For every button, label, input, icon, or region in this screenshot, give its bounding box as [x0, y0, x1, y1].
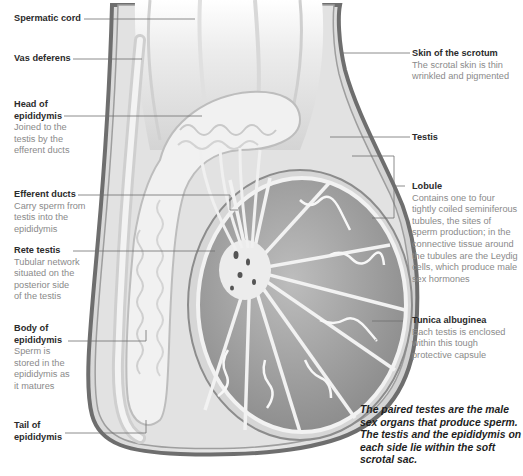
label-description: epididymis as — [14, 369, 70, 381]
label-title: Efferent ducts — [14, 189, 85, 201]
label-title: Tail of — [14, 420, 62, 432]
label-tunica-albuginea: Tunica albuginea Each testis is enclosed… — [412, 315, 505, 361]
label-description: epididymis — [14, 224, 85, 236]
diagram-caption: The paired testes are the male sex organ… — [360, 404, 523, 467]
label-spermatic-cord: Spermatic cord — [14, 13, 81, 25]
label-description: Tubular network — [14, 257, 80, 269]
label-lobule: Lobule Contains one to four tightly coil… — [412, 181, 518, 285]
label-tail-of-epididymis: Tail of epididymis — [14, 420, 62, 443]
label-description: tubules, the sites of — [412, 216, 518, 228]
label-description: Carry sperm from — [14, 201, 85, 213]
label-rete-testis: Rete testis Tubular network situated on … — [14, 245, 80, 303]
label-title: Head of — [14, 99, 70, 111]
label-description: wrinkled and pigmented — [412, 71, 509, 83]
label-title: Skin of the scrotum — [412, 48, 509, 60]
caption-line: sex organs that produce sperm. — [360, 417, 523, 430]
label-efferent-ducts: Efferent ducts Carry sperm from testis i… — [14, 189, 85, 235]
label-skin-of-scrotum: Skin of the scrotum The scrotal skin is … — [412, 48, 509, 83]
label-description: Each testis is enclosed — [412, 327, 505, 339]
label-description: Sperm is — [14, 346, 70, 358]
label-description: the tubules are the Leydig — [412, 251, 518, 263]
label-title: Rete testis — [14, 245, 80, 257]
label-description: stored in the — [14, 358, 70, 370]
label-description: testis into the — [14, 212, 85, 224]
label-testis: Testis — [412, 132, 438, 144]
label-description: Contains one to four — [412, 193, 518, 205]
label-title: Body of — [14, 323, 70, 335]
label-description: situated on the — [14, 268, 80, 280]
label-description: tightly coiled seminiferous — [412, 204, 518, 216]
label-description: sperm production; in the — [412, 227, 518, 239]
label-description: Joined to the — [14, 122, 70, 134]
label-title: epididymis — [14, 335, 70, 347]
label-title: Lobule — [412, 181, 518, 193]
label-head-of-epididymis: Head of epididymis Joined to the testis … — [14, 99, 70, 157]
label-description: efferent ducts — [14, 145, 70, 157]
caption-line: The paired testes are the male — [360, 404, 523, 417]
label-description: protective capsule — [412, 350, 505, 362]
caption-line: each side lie within the soft — [360, 442, 523, 455]
label-description: it matures — [14, 381, 70, 393]
label-title: Vas deferens — [14, 53, 71, 65]
label-description: cells, which produce male — [412, 262, 518, 274]
label-description: The scrotal skin is thin — [412, 60, 509, 72]
label-title: epididymis — [14, 111, 70, 123]
label-description: of the testis — [14, 291, 80, 303]
label-title: Testis — [412, 132, 438, 144]
label-vas-deferens: Vas deferens — [14, 53, 71, 65]
label-description: testis by the — [14, 134, 70, 146]
label-description: connective tissue around — [412, 239, 518, 251]
label-description: within this tough — [412, 338, 505, 350]
caption-line: The testis and the epididymis on — [360, 429, 523, 442]
label-title: Spermatic cord — [14, 13, 81, 25]
label-description: posterior side — [14, 280, 80, 292]
label-title: Tunica albuginea — [412, 315, 505, 327]
caption-line: scrotal sac. — [360, 454, 523, 467]
label-body-of-epididymis: Body of epididymis Sperm is stored in th… — [14, 323, 70, 393]
label-title: epididymis — [14, 432, 62, 444]
label-description: sex hormones — [412, 274, 518, 286]
